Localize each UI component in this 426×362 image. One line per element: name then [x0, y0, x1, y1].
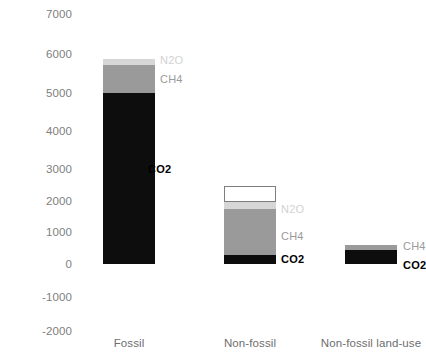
bar-group-fossil[interactable] — [103, 0, 155, 362]
bar-label-fossil-co2: CO2 — [148, 163, 171, 175]
bar-segment-nonfossil-co2[interactable] — [224, 255, 276, 264]
y-tick-6000: 6000 — [18, 48, 72, 60]
bar-label-nonfossil-n2o: N2O — [281, 203, 304, 215]
bar-label-nonfossil-co2: CO2 — [281, 253, 304, 265]
bar-stack-fossil[interactable] — [103, 59, 155, 264]
bar-label-fossil-ch4: CH4 — [160, 73, 183, 85]
bar-label-landuse-co2: CO2 — [403, 259, 426, 271]
x-tick-label-fossil: Fossil — [114, 337, 145, 349]
bar-label-landuse-ch4: CH4 — [403, 240, 426, 252]
x-tick-label-nonfossil: Non-fossil — [224, 337, 276, 349]
y-tick-2000: 2000 — [18, 195, 72, 207]
bar-stack-nonfossil[interactable] — [224, 186, 276, 264]
bar-group-nonfossil[interactable] — [224, 0, 276, 362]
y-tick-5000: 5000 — [18, 87, 72, 99]
y-tick-7000: 7000 — [18, 8, 72, 20]
y-axis-tick-labels: 7000 6000 5000 4000 3000 2000 1000 0 -10… — [18, 0, 72, 362]
bar-label-nonfossil-ch4: CH4 — [281, 230, 304, 242]
bar-segment-nonfossil-n2o[interactable] — [224, 202, 276, 209]
bar-group-nonfossil-landuse[interactable] — [345, 0, 397, 362]
bar-segment-fossil-ch4[interactable] — [103, 65, 155, 93]
plot-area: N2O CH4 CO2 N2O CH4 CO2 — [78, 0, 426, 362]
y-tick-1000: 1000 — [18, 226, 72, 238]
y-tick-3000: 3000 — [18, 163, 72, 175]
bar-segment-fossil-co2[interactable] — [103, 93, 155, 264]
ghg-emissions-chart: GHG emissions (Mt CO2e/year) 7000 6000 5… — [0, 0, 426, 362]
bar-segment-nonfossil-ch4[interactable] — [224, 209, 276, 255]
bar-stack-nonfossil-landuse[interactable] — [345, 245, 397, 264]
x-tick-label-nonfossil-landuse: Non-fossil land-use — [321, 337, 421, 349]
y-tick-4000: 4000 — [18, 125, 72, 137]
bar-label-fossil-n2o: N2O — [160, 54, 183, 66]
y-tick--2000: -2000 — [18, 325, 72, 337]
bar-segment-nonfossil-outline[interactable] — [224, 186, 276, 202]
y-tick--1000: -1000 — [18, 291, 72, 303]
bar-segment-landuse-co2[interactable] — [345, 250, 397, 264]
y-tick-0: 0 — [18, 258, 72, 270]
